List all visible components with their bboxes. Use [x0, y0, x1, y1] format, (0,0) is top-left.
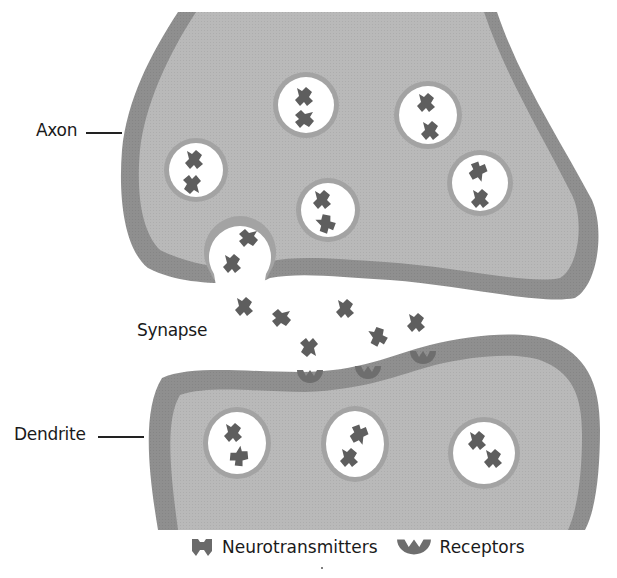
- vesicle: [164, 138, 228, 202]
- vesicle: [273, 72, 339, 138]
- legend-label-receptors: Receptors: [440, 537, 525, 557]
- legend-item-receptors: Receptors: [396, 537, 525, 557]
- fusing-vesicle: [204, 216, 276, 286]
- synapse-diagram: [0, 0, 617, 578]
- vesicle: [447, 150, 513, 216]
- dendrite-label: Dendrite: [14, 424, 86, 444]
- receptor-icon: [396, 537, 432, 557]
- free-neurotransmitters: [235, 297, 425, 357]
- axon-label: Axon: [36, 120, 77, 140]
- vesicle: [203, 407, 271, 479]
- vesicle: [394, 81, 462, 149]
- dendrite-leader-line: [98, 436, 144, 438]
- neurotransmitter-icon: [190, 537, 214, 557]
- legend-label-neurotransmitters: Neurotransmitters: [222, 537, 378, 557]
- axon-leader-line: [86, 132, 122, 134]
- vesicle: [296, 178, 360, 242]
- legend: Neurotransmitters Receptors: [190, 537, 543, 557]
- synapse-label: Synapse: [137, 320, 207, 340]
- vesicle: [321, 406, 389, 482]
- vesicle: [448, 417, 520, 489]
- stray-mark: [321, 567, 323, 569]
- legend-item-neurotransmitters: Neurotransmitters: [190, 537, 378, 557]
